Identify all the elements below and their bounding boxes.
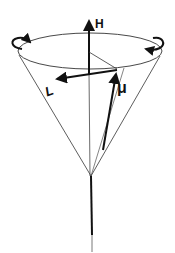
magnetic-moment-arrow	[103, 74, 116, 150]
angular-momentum-label: L	[43, 82, 56, 99]
precession-radius	[89, 52, 117, 69]
rotation-arrow-right-icon	[146, 38, 163, 50]
precession-cone-diagram: H μ L	[0, 0, 175, 253]
axis-inner	[89, 72, 90, 176]
rotation-arrow-left-icon	[12, 38, 30, 49]
cone-side-left	[19, 55, 91, 176]
axis-lower	[91, 176, 92, 235]
magnetic-moment-label: μ	[117, 79, 127, 96]
cone-side-right	[91, 56, 160, 176]
field-label-h: H	[95, 17, 104, 31]
angular-momentum-arrow	[57, 70, 117, 79]
